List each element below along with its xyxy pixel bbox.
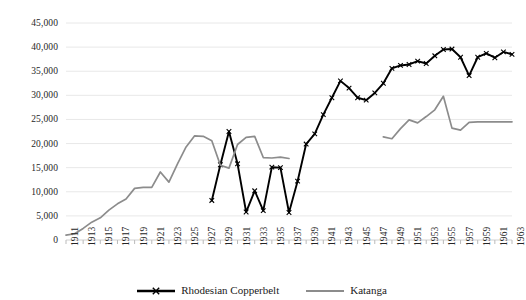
chart-legend: Rhodesian CopperbeltKatanga: [0, 285, 523, 296]
x-axis-tick-label: 1945: [362, 227, 372, 246]
legend-label: Katanga: [350, 285, 387, 296]
legend-label: Rhodesian Copperbelt: [181, 285, 279, 296]
series-line-1: [210, 47, 515, 215]
x-axis-tick-label: 1953: [430, 227, 440, 246]
x-axis-tick-marks: [66, 240, 512, 244]
x-axis-tick-label: 1943: [344, 227, 354, 246]
y-axis-tick-label: 30,000: [0, 90, 58, 100]
y-axis-tick-label: 25,000: [0, 114, 58, 124]
x-axis-tick-label: 1951: [413, 227, 423, 246]
x-axis-tick-label: 1919: [139, 227, 149, 246]
legend-swatch-line-icon: [305, 286, 345, 296]
x-axis-tick-label: 1961: [499, 227, 509, 246]
x-axis-tick-label: 1941: [327, 227, 337, 246]
x-axis-tick-label: 1925: [190, 227, 200, 246]
x-axis-tick-label: 1921: [156, 227, 166, 246]
legend-swatch-line-icon: [136, 286, 176, 296]
y-axis-tick-label: 35,000: [0, 66, 58, 76]
y-axis-tick-label: 10,000: [0, 187, 58, 197]
x-axis-tick-label: 1911: [70, 227, 80, 246]
gridlines: [66, 23, 512, 240]
y-axis-tick-label: 40,000: [0, 42, 58, 52]
x-axis-tick-label: 1957: [465, 227, 475, 246]
legend-item-1[interactable]: Rhodesian Copperbelt: [136, 285, 279, 296]
x-axis-tick-label: 1937: [293, 227, 303, 246]
x-axis-tick-label: 1929: [224, 227, 234, 246]
x-axis-tick-label: 1923: [173, 227, 183, 246]
x-axis-tick-label: 1939: [310, 227, 320, 246]
x-axis-tick-label: 1935: [276, 227, 286, 246]
y-axis-tick-label: 0: [0, 235, 58, 245]
y-axis-tick-label: 20,000: [0, 139, 58, 149]
x-axis-tick-label: 1963: [516, 227, 526, 246]
x-axis-tick-label: 1917: [121, 227, 131, 246]
y-axis-tick-label: 45,000: [0, 18, 58, 28]
y-axis-tick-label: 15,000: [0, 163, 58, 173]
x-axis-tick-label: 1931: [242, 227, 252, 246]
x-axis-tick-label: 1927: [207, 227, 217, 246]
x-axis-tick-label: 1933: [259, 227, 269, 246]
x-axis-tick-label: 1947: [379, 227, 389, 246]
x-axis-tick-label: 1913: [87, 227, 97, 246]
legend-item-2[interactable]: Katanga: [305, 285, 387, 296]
series-line-2: [66, 96, 512, 235]
x-axis-tick-label: 1955: [447, 227, 457, 246]
x-axis-tick-label: 1959: [482, 227, 492, 246]
x-axis-tick-label: 1915: [104, 227, 114, 246]
y-axis-tick-label: 5,000: [0, 211, 58, 221]
x-axis-tick-label: 1949: [396, 227, 406, 246]
